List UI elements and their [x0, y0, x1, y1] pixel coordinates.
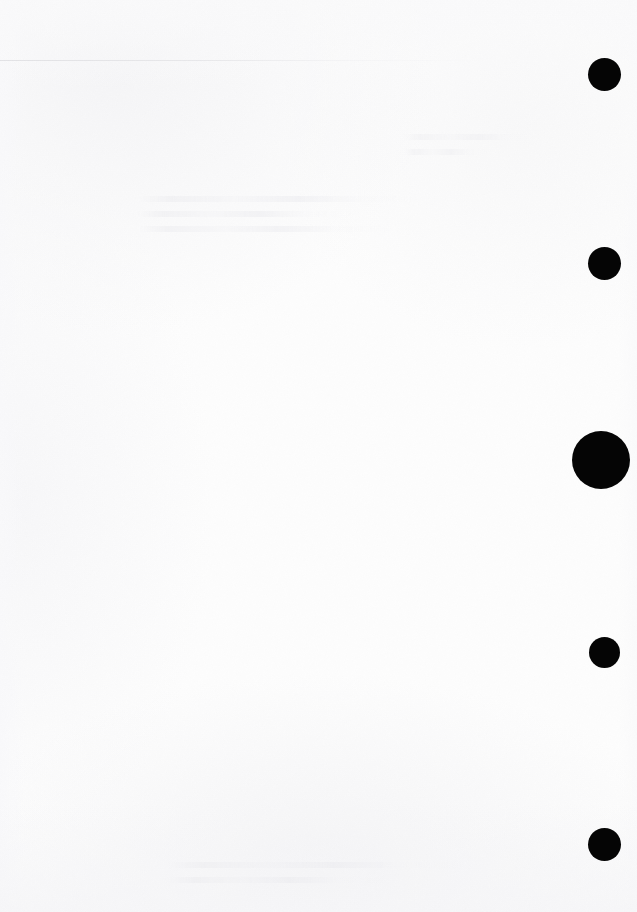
- ghost-text-upper: [138, 196, 438, 241]
- registration-mark-4: [589, 637, 620, 668]
- scan-rule: [0, 60, 486, 61]
- registration-mark-3: [572, 431, 630, 489]
- ghost-text-header: [404, 134, 554, 164]
- scanned-page: [0, 0, 637, 912]
- registration-mark-2: [588, 247, 621, 280]
- ghost-text-lower: [168, 862, 498, 892]
- registration-mark-1: [588, 58, 621, 91]
- registration-mark-5: [588, 828, 621, 861]
